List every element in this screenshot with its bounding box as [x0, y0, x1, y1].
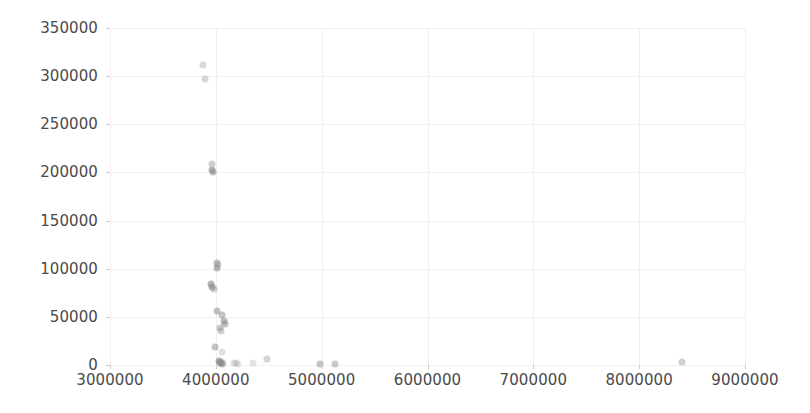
x-axis-tick-label: 9000000 — [711, 371, 779, 389]
x-axis-tick-mark — [533, 365, 534, 369]
data-point — [208, 160, 215, 167]
y-axis-tick-mark — [106, 124, 110, 125]
x-axis-tick-mark — [322, 365, 323, 369]
scatter-chart-figure: 3000000400000050000006000000700000080000… — [0, 0, 810, 413]
gridline-horizontal — [110, 124, 745, 125]
gridline-horizontal — [110, 269, 745, 270]
x-axis-tick-label: 8000000 — [605, 371, 673, 389]
x-axis-tick-label: 6000000 — [394, 371, 462, 389]
y-axis-tick-label: 150000 — [40, 212, 98, 230]
y-axis-tick-label: 200000 — [40, 163, 98, 181]
x-axis-tick-label: 5000000 — [288, 371, 356, 389]
data-point — [217, 328, 224, 335]
x-axis-tick-mark — [745, 365, 746, 369]
y-axis-tick-label: 300000 — [40, 67, 98, 85]
gridline-horizontal — [110, 221, 745, 222]
x-axis-tick-label: 7000000 — [500, 371, 568, 389]
data-point — [213, 308, 220, 315]
data-point — [208, 284, 215, 291]
gridline-vertical — [322, 28, 323, 365]
x-axis-tick-mark — [216, 365, 217, 369]
y-axis-tick-mark — [106, 28, 110, 29]
y-axis-tick-label: 350000 — [40, 19, 98, 37]
data-point — [221, 317, 228, 324]
gridline-vertical — [745, 28, 746, 365]
y-axis-tick-label: 50000 — [50, 308, 98, 326]
y-axis-tick-mark — [106, 365, 110, 366]
x-axis-tick-mark — [428, 365, 429, 369]
y-axis-tick-label: 100000 — [40, 260, 98, 278]
y-axis-tick-mark — [106, 317, 110, 318]
gridline-horizontal — [110, 317, 745, 318]
gridline-vertical — [428, 28, 429, 365]
x-axis-tick-mark — [110, 365, 111, 369]
data-point — [217, 325, 224, 332]
y-axis-tick-label: 0 — [88, 356, 98, 374]
data-point — [213, 259, 220, 266]
data-point — [263, 356, 270, 363]
data-point — [207, 281, 214, 288]
gridline-horizontal — [110, 28, 745, 29]
gridline-vertical — [533, 28, 534, 365]
y-axis-tick-mark — [106, 221, 110, 222]
gridline-horizontal — [110, 76, 745, 77]
data-point — [200, 61, 207, 68]
y-axis-tick-mark — [106, 172, 110, 173]
plot-area — [110, 28, 745, 365]
gridline-horizontal — [110, 172, 745, 173]
x-axis-tick-label: 4000000 — [182, 371, 250, 389]
x-axis-tick-label: 3000000 — [76, 371, 144, 389]
gridline-vertical — [639, 28, 640, 365]
gridline-vertical — [110, 28, 111, 365]
x-axis-tick-mark — [639, 365, 640, 369]
y-axis-tick-mark — [106, 269, 110, 270]
data-point — [219, 349, 226, 356]
y-axis-tick-label: 250000 — [40, 115, 98, 133]
data-point — [221, 320, 228, 327]
y-axis-tick-mark — [106, 76, 110, 77]
gridline-vertical — [216, 28, 217, 365]
